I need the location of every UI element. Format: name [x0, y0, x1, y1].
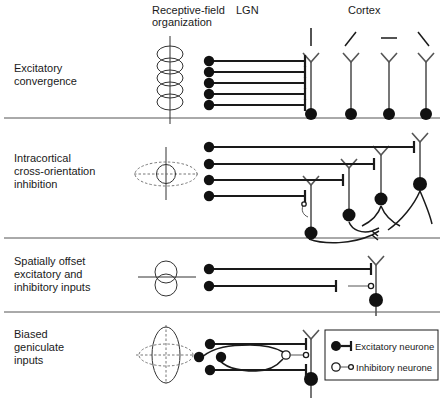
- lgn-input-row3-excitatory: [204, 263, 371, 275]
- row-label-spatially-offset-line2: excitatory and: [14, 268, 82, 280]
- row-label-excitatory-convergence-line1: Excitatory: [14, 62, 63, 74]
- lgn-input-row1-1: [204, 55, 305, 67]
- row-label-intracortical-line1: Intracortical: [14, 152, 71, 164]
- lgn-input-row1-4: [204, 88, 305, 100]
- lgn-inputs-row4: [194, 338, 309, 376]
- legend-label-excitatory: Excitatory neurone: [355, 341, 434, 352]
- lgn-input-row1-2: [204, 66, 305, 78]
- row-label-biased-geniculate-line3: inputs: [14, 354, 44, 366]
- rf-icon-horizontal-ellipse-with-center-circle: [134, 147, 198, 200]
- lgn-input-row4-bottom-excitatory: [205, 364, 306, 376]
- legend-label-inhibitory: Inhibitory neurone: [356, 362, 432, 373]
- neural-circuit-diagram: Receptive-field organization LGN Cortex …: [0, 0, 444, 406]
- inhibitory-terminal-open: [302, 202, 306, 206]
- cortical-neuron-row1-3: [381, 38, 397, 120]
- soma-filled: [420, 108, 432, 120]
- inhibitory-terminal-open: [303, 352, 308, 357]
- cortical-neuron-row2-2: [341, 159, 379, 236]
- soma-filled: [345, 108, 357, 120]
- orientation-bar-diagonal-right: [345, 32, 356, 46]
- orientation-bar-diagonal-left: [418, 32, 429, 46]
- row-label-spatially-offset-line3: inhibitory inputs: [14, 281, 91, 293]
- cortical-neuron-row2-1: [302, 176, 379, 243]
- header-receptive-field-line1: Receptive-field: [152, 4, 225, 16]
- rf-icon-vertical-ellipse-crossed-horizontal-ellipse: [136, 325, 196, 384]
- lgn-input-row3-inhibitory: [348, 283, 374, 288]
- cortical-neuron-row1-2: [343, 32, 359, 120]
- header-lgn: LGN: [236, 4, 259, 16]
- row-label-biased-geniculate-line1: Biased: [14, 328, 48, 340]
- cortical-neuron-group-row1: [303, 28, 434, 120]
- inhibitory-terminal-open: [368, 283, 373, 288]
- inhibitory-interneuron-soma: [282, 351, 290, 359]
- lgn-input-row1-5: [204, 99, 305, 111]
- lgn-input-row2-3: [204, 174, 343, 186]
- cortical-neuron-row2-3: [362, 146, 400, 226]
- cortical-neuron-group-row2: [302, 133, 432, 243]
- lgn-input-row2-4: [204, 190, 305, 202]
- row-label-excitatory-convergence-line2: convergence: [14, 75, 77, 87]
- rf-icon-two-stacked-circles-with-horizontal-line: [138, 261, 196, 296]
- lgn-input-row2-1: [204, 141, 414, 153]
- row-label-intracortical-line2: cross-orientation: [14, 165, 95, 177]
- lgn-input-row3-excitatory-offset: [204, 280, 336, 292]
- lgn-inputs-row1: [204, 55, 305, 111]
- soma-filled: [383, 108, 395, 120]
- lgn-inputs-row3: [204, 263, 374, 292]
- soma-filled: [305, 108, 317, 120]
- row-label-biased-geniculate-line2: geniculate: [14, 341, 64, 353]
- header-cortex: Cortex: [348, 4, 381, 16]
- rf-icon-vertical-chain-of-circles: [157, 36, 183, 124]
- lgn-input-row1-3: [204, 77, 305, 89]
- row-label-intracortical-line3: inhibition: [14, 178, 57, 190]
- legend: Excitatory neurone Inhibitory neurone: [325, 330, 438, 380]
- header-receptive-field-line2: organization: [152, 16, 212, 28]
- diagram-canvas: Receptive-field organization LGN Cortex …: [0, 0, 444, 406]
- row-label-spatially-offset-line1: Spatially offset: [14, 255, 85, 267]
- cortical-neuron-row1-4: [418, 32, 434, 120]
